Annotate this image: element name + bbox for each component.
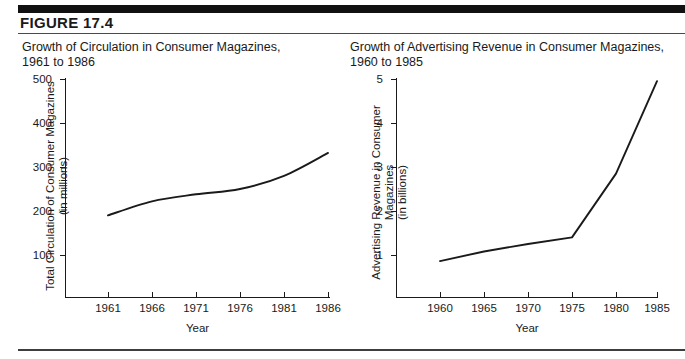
y-tick-label-4: 4 bbox=[377, 117, 383, 129]
x-tick-label-1961: 1961 bbox=[95, 302, 121, 314]
plot-area-advertising: Advertising Revenue in Consumer Magazine… bbox=[396, 78, 658, 326]
x-tick-label-1985: 1985 bbox=[644, 302, 670, 314]
x-tick-label-1986: 1986 bbox=[315, 302, 341, 314]
x-tick-label-1960: 1960 bbox=[427, 302, 453, 314]
series-line-circulation bbox=[65, 78, 335, 300]
y-tick-label-3: 3 bbox=[377, 161, 383, 173]
y-tick-label-300: 300 bbox=[33, 161, 52, 173]
y-tick-label-500: 500 bbox=[33, 73, 52, 85]
y-tick-label-200: 200 bbox=[33, 205, 52, 217]
y-tick-label-2: 2 bbox=[377, 205, 383, 217]
y-tick-label-100: 100 bbox=[33, 249, 52, 261]
header-divider bbox=[18, 33, 685, 34]
x-tick-label-1976: 1976 bbox=[227, 302, 253, 314]
chart-title-advertising: Growth of Advertising Revenue in Consume… bbox=[350, 40, 676, 70]
footer-divider bbox=[18, 349, 685, 351]
chart-panel-advertising: Growth of Advertising Revenue in Consume… bbox=[348, 38, 678, 343]
y-tick-label-5: 5 bbox=[377, 73, 383, 85]
plot-area-circulation: Total Circulation of Consumer Magazines … bbox=[65, 78, 330, 326]
chart-title-circulation: Growth of Circulation in Consumer Magazi… bbox=[22, 40, 348, 70]
x-tick-label-1980: 1980 bbox=[603, 302, 629, 314]
x-tick-label-1981: 1981 bbox=[271, 302, 297, 314]
series-line-advertising bbox=[396, 78, 664, 300]
x-tick-label-1966: 1966 bbox=[139, 302, 165, 314]
x-tick-label-1971: 1971 bbox=[183, 302, 209, 314]
x-tick-label-1970: 1970 bbox=[515, 302, 541, 314]
x-tick-label-1975: 1975 bbox=[559, 302, 585, 314]
x-axis-title-circulation: Year bbox=[65, 322, 330, 334]
figure-top-bar bbox=[18, 5, 685, 13]
figure-label: FIGURE 17.4 bbox=[20, 14, 113, 31]
x-axis-title-advertising: Year bbox=[396, 322, 658, 334]
chart-panel-circulation: Growth of Circulation in Consumer Magazi… bbox=[20, 38, 350, 343]
y-tick-label-1: 1 bbox=[377, 249, 383, 261]
y-tick-label-400: 400 bbox=[33, 117, 52, 129]
x-tick-label-1965: 1965 bbox=[471, 302, 497, 314]
